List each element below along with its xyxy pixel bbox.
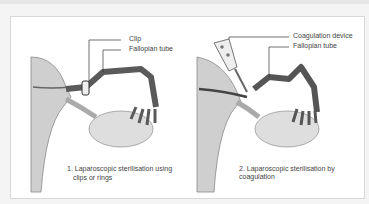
panel-coagulation-sterilisation: Coagulation device Fallopian tube 2. Lap… — [189, 17, 365, 198]
top-bar — [0, 0, 369, 4]
caption-panel-1-line-2: clips or rings — [73, 174, 112, 182]
panel-clip-sterilisation: Clip Fallopian tube 1. Laparoscopic ster… — [11, 17, 187, 198]
label-coagulation-device: Coagulation device — [293, 32, 353, 39]
figure-frame: Clip Fallopian tube 1. Laparoscopic ster… — [10, 16, 365, 199]
label-fallopian-tube: Fallopian tube — [293, 42, 337, 49]
caption-panel-1-line-1: 1. Laparoscopic sterilisation using — [67, 165, 172, 173]
caption-panel-2: 2. Laparoscopic sterilisation by coagula… — [239, 165, 365, 181]
label-fallopian-tube: Fallopian tube — [129, 45, 173, 52]
label-clip: Clip — [129, 35, 141, 42]
